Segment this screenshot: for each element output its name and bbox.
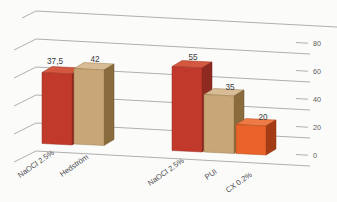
chart-container: 80 60 40 20 0 (0, 0, 337, 202)
category-label-hedstrom: Hedström (58, 152, 90, 178)
tick-mark-0 (296, 155, 308, 156)
category-label-naocl-left: NaOCl 2.5% (16, 148, 56, 180)
left-tick-stub-5 (14, 158, 22, 162)
bar-front-face (74, 69, 104, 146)
left-tick-stub-1 (14, 46, 22, 50)
bar-cx[interactable] (236, 119, 276, 156)
category-label-cx: CX 0.2% (224, 170, 254, 195)
y-tick-label-20: 20 (313, 123, 321, 132)
y-tick-label-80: 80 (313, 39, 321, 48)
left-wall-ticks (14, 46, 22, 162)
value-label-35: 35 (225, 83, 235, 92)
bar-front-face (172, 67, 202, 153)
axis-ticks (296, 43, 308, 156)
bar-chart-3d: 80 60 40 20 0 (0, 0, 337, 202)
tick-mark-80 (296, 43, 308, 44)
bar-front-face (42, 73, 72, 146)
category-labels: NaOCl 2.5% Hedström NaOCl 2.5% PUI CX 0.… (16, 148, 254, 195)
y-tick-label-40: 40 (313, 95, 321, 104)
left-tick-stub-2 (14, 74, 22, 78)
y-tick-label-0: 0 (313, 151, 317, 160)
y-tick-label-60: 60 (313, 67, 321, 76)
bar-side-face (104, 64, 114, 146)
value-label-55: 55 (188, 53, 198, 62)
wall-edge-top (22, 11, 337, 27)
left-tick-stub-3 (14, 102, 22, 106)
y-axis-labels: 80 60 40 20 0 (313, 39, 321, 160)
bar-front-face (236, 125, 266, 156)
value-label-37-5: 37,5 (47, 57, 63, 66)
gridline-80 (22, 39, 310, 54)
tick-mark-40 (296, 99, 308, 100)
left-tick-stub-4 (14, 130, 22, 134)
category-label-pui: PUI (203, 167, 219, 182)
bar-front-face (204, 95, 234, 154)
value-label-20: 20 (258, 113, 268, 122)
tick-mark-20 (296, 127, 308, 128)
category-label-naocl-right: NaOCl 2.5% (146, 156, 186, 188)
tick-mark-60 (296, 71, 308, 72)
bar-hedstrom[interactable] (74, 63, 114, 146)
bar-side-face (266, 120, 276, 155)
value-label-42: 42 (90, 55, 100, 64)
